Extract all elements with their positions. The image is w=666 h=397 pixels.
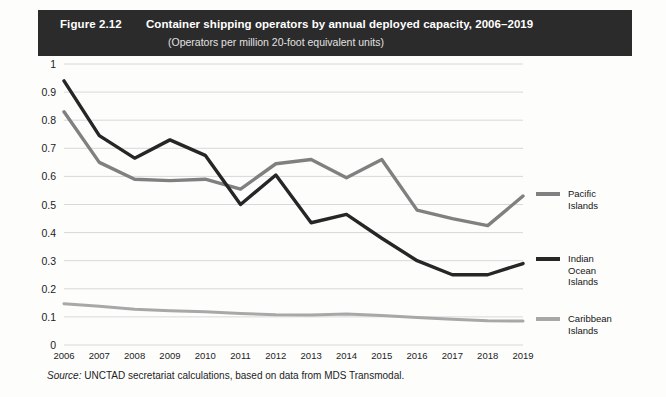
y-tick-label: 0.2 xyxy=(22,283,56,295)
x-tick-label: 2019 xyxy=(512,350,533,361)
x-tick-label: 2008 xyxy=(124,350,145,361)
y-tick-label: 0.8 xyxy=(22,114,56,126)
figure-subtitle: (Operators per million 20-foot equivalen… xyxy=(168,34,632,50)
source-text: UNCTAD secretariat calculations, based o… xyxy=(81,370,404,381)
series-line-caribbean-islands xyxy=(64,304,523,321)
legend-label: Indian Ocean Islands xyxy=(568,253,598,288)
x-tick-label: 2007 xyxy=(89,350,110,361)
x-tick-label: 2011 xyxy=(230,350,250,361)
y-tick-label: 0.9 xyxy=(22,86,56,98)
y-tick-label: 0.3 xyxy=(22,255,56,267)
figure-number: Figure 2.12 xyxy=(38,16,146,32)
legend-item[interactable]: Pacific Islands xyxy=(536,188,598,211)
x-tick-label: 2009 xyxy=(159,350,180,361)
title-row: Figure 2.12 Container shipping operators… xyxy=(38,16,632,32)
figure-container: Figure 2.12 Container shipping operators… xyxy=(0,0,666,397)
figure-title: Container shipping operators by annual d… xyxy=(146,16,533,32)
source-note: Source: UNCTAD secretariat calculations,… xyxy=(47,370,404,381)
x-tick-label: 2018 xyxy=(477,350,498,361)
legend-label: Caribbean Islands xyxy=(568,313,612,336)
legend-label: Pacific Islands xyxy=(568,188,598,211)
y-tick-label: 1 xyxy=(22,58,56,70)
y-tick-label: 0.5 xyxy=(22,199,56,211)
y-tick-label: 0.7 xyxy=(22,142,56,154)
y-tick-label: 0.4 xyxy=(22,227,56,239)
y-tick-label: 0.6 xyxy=(22,170,56,182)
x-tick-label: 2013 xyxy=(301,350,322,361)
series-line-indian-ocean-islands xyxy=(64,81,523,275)
x-tick-label: 2006 xyxy=(53,350,74,361)
legend-swatch-icon xyxy=(536,317,560,321)
legend-swatch-icon xyxy=(536,257,560,261)
x-tick-label: 2015 xyxy=(371,350,392,361)
figure-title-bar: Figure 2.12 Container shipping operators… xyxy=(38,10,632,56)
x-tick-label: 2016 xyxy=(406,350,427,361)
series-line-pacific-islands xyxy=(64,112,523,226)
legend-item[interactable]: Indian Ocean Islands xyxy=(536,253,598,288)
y-tick-label: 0 xyxy=(22,339,56,351)
x-tick-label: 2014 xyxy=(336,350,357,361)
legend-swatch-icon xyxy=(536,192,560,196)
source-label: Source: xyxy=(47,370,81,381)
x-tick-label: 2010 xyxy=(195,350,216,361)
legend-item[interactable]: Caribbean Islands xyxy=(536,313,612,336)
y-tick-label: 0.1 xyxy=(22,311,56,323)
x-tick-label: 2012 xyxy=(265,350,286,361)
x-tick-label: 2017 xyxy=(442,350,463,361)
